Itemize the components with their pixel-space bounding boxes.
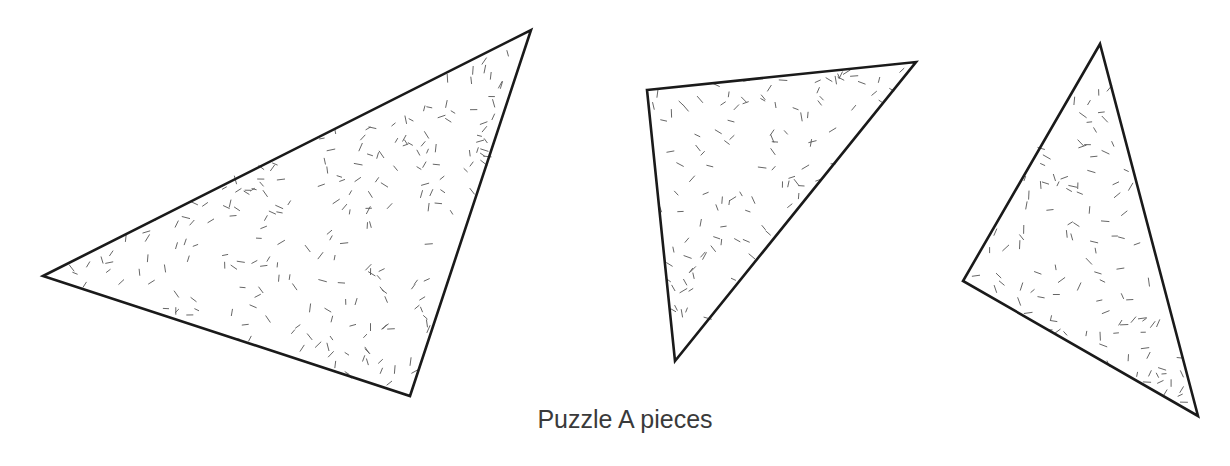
puzzle-piece-1 [43,30,531,396]
puzzle-diagram [0,0,1230,466]
triangle-outline [647,62,916,361]
triangle-outline [43,30,531,396]
triangle-outline [963,44,1198,416]
puzzle-piece-2 [647,62,916,361]
diagram-caption: Puzzle A pieces [0,405,1230,434]
puzzle-piece-3 [963,44,1198,416]
